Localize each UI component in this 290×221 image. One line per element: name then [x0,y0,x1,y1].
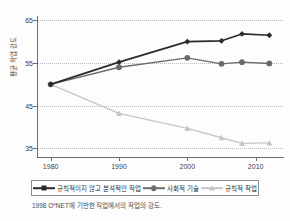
x-tick-label: 2010 [248,163,264,170]
y-axis-label: 평균 작업 강도 [8,18,18,96]
chart-caption: 1998 O*NET에 기반한 직업에서의 작업의 강도. [32,200,162,210]
legend-item-1[interactable]: 사회적 기술 [143,183,199,193]
chart-legend: 규칙적이지 않고 분석적인 작업사회적 기술규칙적 작업 [31,180,259,196]
x-tick-label: 1990 [111,163,127,170]
legend-label: 규칙적이지 않고 분석적인 작업 [57,183,140,193]
legend-swatch-triangle-icon [201,184,223,192]
series-line-2 [51,84,270,143]
series-line-1 [51,58,270,84]
x-tick-label: 2000 [180,163,196,170]
y-tick-label: 35 [18,145,33,152]
y-tick-label: 55 [18,60,33,67]
legend-swatch-diamond-icon [33,184,55,192]
legend-item-2[interactable]: 규칙적 작업 [201,183,257,193]
plot-area [37,16,283,156]
series-canvas [37,16,283,158]
legend-item-0[interactable]: 규칙적이지 않고 분석적인 작업 [33,183,140,193]
legend-label: 사회적 기술 [167,183,199,193]
x-tick-label: 1980 [43,163,59,170]
legend-label: 규칙적 작업 [225,183,257,193]
chart-figure: 평균 작업 강도 65554535 1980199020002010 규칙적이지… [0,0,290,221]
y-tick-label: 45 [18,102,33,109]
y-tick-label: 65 [18,17,33,24]
legend-swatch-circle-icon [143,184,165,192]
